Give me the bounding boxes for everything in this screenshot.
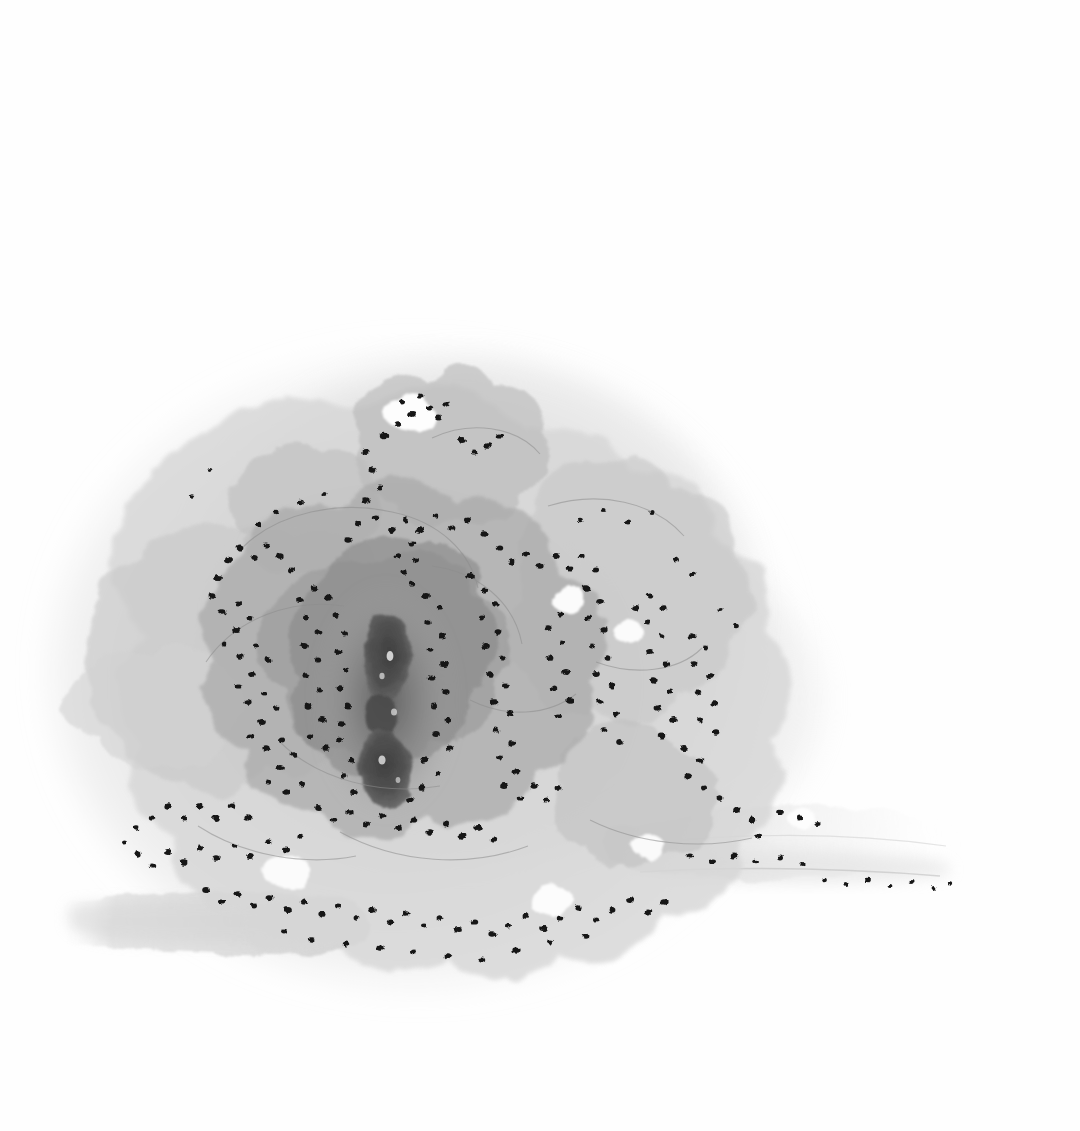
ink-wash-painting	[0, 0, 1080, 1131]
paper-grain-overlay	[0, 0, 1080, 1131]
artwork-canvas: Ink Wash Bloom Monochrome sumi-e ink and…	[0, 0, 1080, 1131]
